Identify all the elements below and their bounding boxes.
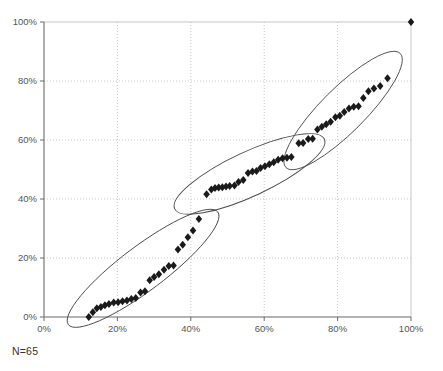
data-point bbox=[190, 227, 197, 235]
x-tick-label: 0% bbox=[37, 323, 51, 334]
data-point bbox=[309, 135, 316, 143]
y-tick-label: 100% bbox=[13, 16, 38, 27]
data-point bbox=[288, 153, 295, 161]
y-tick-label: 40% bbox=[18, 193, 38, 204]
tick-labels: 0%20%40%60%80%100%0%20%40%60%80%100% bbox=[13, 16, 424, 334]
gridlines bbox=[44, 22, 411, 317]
data-point bbox=[371, 84, 378, 92]
y-tick-label: 60% bbox=[18, 134, 38, 145]
x-tick-label: 80% bbox=[328, 323, 348, 334]
cluster-lower-left bbox=[55, 194, 231, 342]
y-tick-label: 80% bbox=[18, 75, 38, 86]
cluster-ellipses bbox=[55, 38, 416, 343]
x-tick-label: 60% bbox=[255, 323, 275, 334]
x-tick-label: 20% bbox=[108, 323, 128, 334]
axes bbox=[44, 22, 411, 317]
data-point bbox=[203, 190, 210, 198]
data-point bbox=[408, 18, 415, 26]
data-point bbox=[360, 94, 367, 102]
data-point bbox=[377, 82, 384, 90]
sample-size-label: N=65 bbox=[12, 345, 38, 357]
x-tick-label: 100% bbox=[399, 323, 424, 334]
data-point bbox=[185, 233, 192, 241]
data-point bbox=[175, 245, 182, 253]
scatter-chart: 0%20%40%60%80%100%0%20%40%60%80%100% N=6… bbox=[0, 0, 443, 371]
data-point bbox=[132, 294, 139, 302]
y-tick-label: 20% bbox=[18, 252, 38, 263]
data-point bbox=[179, 241, 186, 249]
data-point bbox=[142, 287, 149, 295]
data-point bbox=[85, 313, 92, 321]
data-point bbox=[170, 261, 177, 269]
tick-marks bbox=[40, 22, 411, 321]
plot-canvas: 0%20%40%60%80%100%0%20%40%60%80%100% bbox=[0, 0, 443, 371]
data-point bbox=[196, 215, 203, 223]
data-point bbox=[240, 176, 247, 184]
data-point bbox=[355, 102, 362, 110]
y-tick-label: 0% bbox=[23, 311, 37, 322]
data-point bbox=[365, 87, 372, 95]
x-tick-label: 40% bbox=[181, 323, 201, 334]
data-point bbox=[161, 266, 168, 274]
